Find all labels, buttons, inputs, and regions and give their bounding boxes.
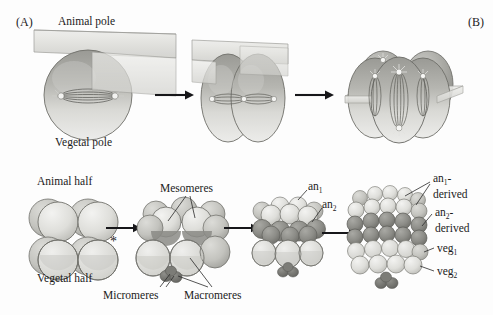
an1-subscript: 1 [319,186,323,195]
an2-derived-text: an [435,206,446,218]
top-stage-1-zygote [34,30,176,140]
veg2-text: veg [437,265,454,277]
an2-subscript: 2 [333,204,337,213]
top-arrow-2 [295,91,334,100]
an1-derived-label: an1- derived [433,172,467,201]
bottom-stage-8-cell [29,199,118,280]
an1-derived-dash: - [448,172,452,184]
macromeres-label: Macromeres [184,289,241,302]
veg2-label: veg2 [437,265,457,281]
an1-label: an1 [308,180,323,196]
an1-derived-line2: derived [433,188,467,200]
vegetal-pole-label: Vegetal pole [55,136,112,149]
micromeres-label: Micromeres [103,289,159,302]
panel-b-tag: (B) [468,16,484,30]
asterisk-marker: * [110,234,117,250]
top-stage-2-two-cell [192,40,288,142]
animal-pole-label: Animal pole [58,15,115,28]
an2-derived-label: an2- derived [435,206,469,235]
an2-derived-line2: derived [435,222,469,234]
an2-label: an2 [322,198,337,214]
bottom-stage-32-cell [252,190,326,277]
veg1-label: veg1 [437,242,457,258]
an1-text: an [308,180,319,192]
mesomeres-label: Mesomeres [160,182,213,195]
veg1-subscript: 1 [454,248,458,257]
veg2-subscript: 2 [454,271,458,280]
an1-derived-text: an [433,172,444,184]
figure-canvas: (A) (B) Animal pole Vegetal pole Animal … [0,0,493,315]
micromere-cluster [375,272,398,289]
diagram-illustration [0,0,493,315]
vegetal-half-label: Vegetal half [37,272,92,285]
animal-half-label: Animal half [37,175,92,188]
bottom-stage-60-cell [347,182,434,289]
top-stage-3-four-cell [345,51,463,143]
panel-a-tag: (A) [16,16,33,30]
bottom-stage-16-cell [136,197,230,283]
veg1-text: veg [437,242,454,254]
an2-derived-dash: - [450,206,454,218]
an2-text: an [322,198,333,210]
